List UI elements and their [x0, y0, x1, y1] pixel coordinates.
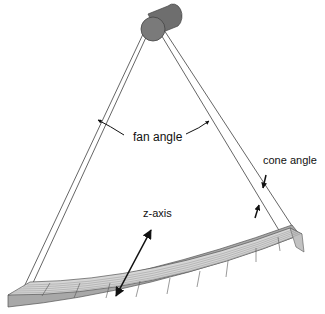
- fan-angle-label: fan angle: [133, 130, 183, 144]
- cone-angle-annotation: cone angle: [255, 154, 317, 218]
- xray-source: [141, 4, 182, 41]
- fan-angle-annotation: fan angle: [98, 120, 209, 144]
- z-axis-label: z-axis: [143, 207, 172, 219]
- ct-geometry-diagram: fan angle cone angle z-axis: [0, 0, 325, 314]
- cone-angle-label: cone angle: [263, 154, 317, 166]
- detector-array: [8, 225, 304, 307]
